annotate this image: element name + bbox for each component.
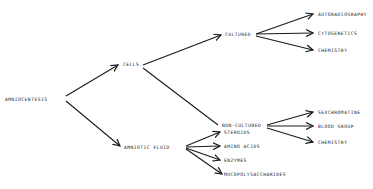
- node-enzymes: ENZYMES: [224, 158, 247, 164]
- node-amniocentesis: AMNIOCENTESIS: [5, 97, 47, 103]
- node-mucopolysaccharides: MUCOPOLYSACCHARIDES: [224, 172, 286, 178]
- edge-cultured-autoradiography: [256, 14, 313, 34]
- tree-edges: [0, 0, 373, 189]
- edge-fluid-steroids: [186, 132, 220, 146]
- node-steroids: STEROIDS: [224, 130, 250, 136]
- edge-noncultured-chemistry: [267, 128, 313, 142]
- edge-cultured-chemistry: [256, 36, 313, 50]
- node-amino-acids: AMINO ACIDS: [224, 144, 260, 150]
- edge-root-fluid: [66, 101, 120, 146]
- node-amniotic-fluid: AMNIOTIC FLUID: [124, 145, 170, 151]
- node-sexchromatine: SEXCHROMATINE: [318, 110, 360, 116]
- edge-cells-cultured: [143, 35, 221, 65]
- node-autoradiography: AUTORADIOGRAPHY: [318, 12, 367, 18]
- node-cytogenetics: CYTOGENETICS: [318, 31, 357, 37]
- edge-fluid-aminoacids: [186, 146, 220, 147]
- edge-noncultured-sexchromatine: [267, 112, 313, 125]
- node-blood-group: BLOOD GROUP: [318, 124, 354, 130]
- node-chemistry-cultured: CHEMISTRY: [318, 48, 347, 54]
- node-chemistry-noncultured: CHEMISTRY: [318, 140, 347, 146]
- edge-cultured-cytogenetics: [256, 33, 313, 34]
- edge-fluid-mucopolysaccharides: [186, 149, 222, 174]
- edge-cells-noncultured: [143, 68, 218, 125]
- edge-root-cells: [66, 65, 118, 96]
- edge-fluid-enzymes: [186, 148, 220, 160]
- node-cultured: CULTURED: [225, 32, 251, 38]
- node-non-cultured: NON-CULTURED: [222, 123, 261, 129]
- node-cells: CELLS: [123, 62, 139, 68]
